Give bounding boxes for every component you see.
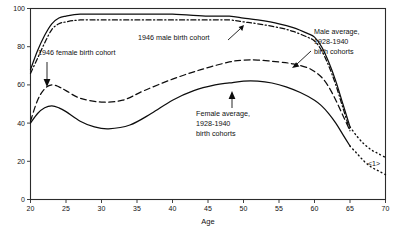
annotation-leader-line <box>297 51 311 64</box>
annotation-male-average: Male average, 1928-1940 birth cohorts <box>292 27 360 68</box>
x-tick-label: 20 <box>27 205 35 212</box>
series-line-1 <box>350 127 386 158</box>
x-tick-label: 35 <box>133 205 141 212</box>
series-line-4 <box>31 81 351 146</box>
x-tick-group: 30 <box>98 200 106 213</box>
annotation-label-line1: Female average, <box>196 109 250 118</box>
y-tick-group: 0 <box>21 196 30 203</box>
reference-marker-label: <1> <box>368 160 380 167</box>
line-chart: 100 80 60 40 20 0 <box>0 0 403 233</box>
chart-figure: 100 80 60 40 20 0 <box>0 0 403 233</box>
y-tick-label: 60 <box>17 81 25 88</box>
x-tick-label: 60 <box>311 205 319 212</box>
x-axis-title: Age <box>201 217 214 226</box>
y-tick-group: 60 <box>17 81 30 88</box>
x-tick-label: 30 <box>98 205 106 212</box>
annotation-male-1946: 1946 male birth cohort <box>138 25 244 42</box>
x-tick-group: 40 <box>169 200 177 213</box>
x-tick-group: 60 <box>311 200 319 213</box>
x-tick-group: 35 <box>133 200 141 213</box>
x-tick-label: 65 <box>346 205 354 212</box>
annotation-label-line3: birth cohorts <box>314 47 354 56</box>
annotation-female-1946: 1946 female birth cohort <box>38 48 116 87</box>
annotation-label: 1946 male birth cohort <box>138 33 210 42</box>
x-tick-group: 25 <box>62 200 70 213</box>
x-tick-label: 25 <box>62 205 70 212</box>
annotation-label-line2: 1928-1940 <box>314 37 348 46</box>
y-tick-label: 0 <box>21 196 25 203</box>
x-tick-label: 50 <box>240 205 248 212</box>
annotation-label: 1946 female birth cohort <box>38 48 116 57</box>
x-axis: 20 25 30 35 40 45 <box>27 200 390 227</box>
y-tick-group: 20 <box>17 158 30 165</box>
series-line-0 <box>31 14 351 127</box>
x-tick-group: 65 <box>346 200 354 213</box>
annotation-label-line1: Male average, <box>314 27 360 36</box>
x-tick-group: 20 <box>27 200 35 213</box>
x-tick-label: 55 <box>275 205 283 212</box>
x-tick-label: 45 <box>204 205 212 212</box>
annotation-female-average: Female average, 1928-1940 birth cohorts <box>196 91 250 138</box>
y-tick-group: 80 <box>17 43 30 50</box>
y-tick-group: 100 <box>13 5 30 12</box>
annotation-reference-marker: <1> <box>368 160 380 167</box>
annotation-label-line2: 1928-1940 <box>196 119 230 128</box>
x-tick-group: 70 <box>382 200 390 213</box>
y-tick-label: 100 <box>13 5 25 12</box>
y-tick-group: 40 <box>17 120 30 127</box>
annotation-label-line3: birth cohorts <box>196 129 236 138</box>
x-tick-group: 55 <box>275 200 283 213</box>
x-tick-label: 70 <box>382 205 390 212</box>
annotation-arrowhead <box>229 91 236 99</box>
annotation-leader-line <box>228 29 240 40</box>
y-tick-label: 80 <box>17 43 25 50</box>
y-tick-label: 20 <box>17 158 25 165</box>
y-tick-label: 40 <box>17 120 25 127</box>
x-tick-label: 40 <box>169 205 177 212</box>
y-axis: 100 80 60 40 20 0 <box>13 5 30 203</box>
x-tick-group: 45 <box>204 200 212 213</box>
x-tick-group: 50 <box>240 200 248 213</box>
